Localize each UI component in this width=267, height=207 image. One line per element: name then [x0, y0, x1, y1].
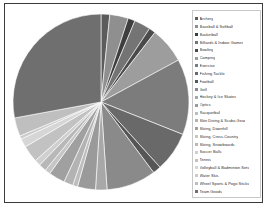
- legend-item-label: Skiing, Downhill: [200, 125, 228, 133]
- legend-swatch-icon: [195, 17, 198, 20]
- legend-item-label: Volleyball & Badminton Sets: [200, 164, 250, 172]
- legend-item[interactable]: Archery: [195, 15, 259, 23]
- legend-item[interactable]: Skiing, Snowboards: [195, 141, 259, 149]
- legend-swatch-icon: [195, 64, 198, 67]
- legend-item-label: Camping: [200, 54, 216, 62]
- legend-item[interactable]: Hockey & Ice Skates: [195, 93, 259, 101]
- legend-item[interactable]: Tennis: [195, 156, 259, 164]
- legend-item[interactable]: Volleyball & Badminton Sets: [195, 164, 259, 172]
- legend-swatch-icon: [195, 33, 198, 36]
- legend-swatch-icon: [195, 135, 198, 138]
- legend-item-label: Optics: [200, 101, 211, 109]
- legend-item-label: Hockey & Ice Skates: [200, 93, 237, 101]
- legend-swatch-icon: [195, 182, 198, 185]
- legend-item[interactable]: Billiards & Indoor Games: [195, 39, 259, 47]
- legend-swatch-icon: [195, 119, 198, 122]
- legend-swatch-icon: [195, 159, 198, 162]
- legend-swatch-icon: [195, 143, 198, 146]
- chart-frame: ArcheryBaseball & SoftballBasketballBill…: [4, 3, 263, 203]
- legend-swatch-icon: [195, 174, 198, 177]
- chart-inner-panel: ArcheryBaseball & SoftballBasketballBill…: [6, 5, 261, 201]
- legend-item[interactable]: Racquetball: [195, 109, 259, 117]
- legend-swatch-icon: [195, 88, 198, 91]
- legend-item-label: Soccer Balls: [200, 148, 222, 156]
- pie-slice[interactable]: [13, 14, 101, 118]
- legend-item[interactable]: Baseball & Softball: [195, 23, 259, 31]
- chart-legend: ArcheryBaseball & SoftballBasketballBill…: [192, 10, 261, 198]
- legend-swatch-icon: [195, 112, 198, 115]
- legend-item-label: Exercise: [200, 62, 215, 70]
- legend-item-label: Bowling: [200, 46, 214, 54]
- pie-chart-area: [6, 5, 192, 201]
- legend-item[interactable]: Basketball: [195, 31, 259, 39]
- legend-item-label: Water Skis: [200, 172, 219, 180]
- legend-swatch-icon: [195, 104, 198, 107]
- legend-item[interactable]: Optics: [195, 101, 259, 109]
- legend-item-label: Basketball: [200, 31, 218, 39]
- legend-item[interactable]: Football: [195, 78, 259, 86]
- legend-item-label: Wheel Sports & Pogo Sticks: [200, 180, 250, 188]
- legend-item-label: Archery: [200, 15, 214, 23]
- legend-swatch-icon: [195, 49, 198, 52]
- legend-swatch-icon: [195, 72, 198, 75]
- legend-item[interactable]: Golf: [195, 86, 259, 94]
- legend-item-label: Skiing, Cross-Country: [200, 133, 239, 141]
- legend-item[interactable]: Skiing, Downhill: [195, 125, 259, 133]
- legend-item[interactable]: Skiing, Cross-Country: [195, 133, 259, 141]
- legend-item-label: Baseball & Softball: [200, 23, 233, 31]
- legend-item[interactable]: Fishing Tackle: [195, 70, 259, 78]
- legend-item[interactable]: Skin Diving & Scuba Gear: [195, 117, 259, 125]
- legend-item-label: Racquetball: [200, 109, 221, 117]
- legend-item-label: Football: [200, 78, 214, 86]
- legend-item[interactable]: Wheel Sports & Pogo Sticks: [195, 180, 259, 188]
- legend-item-label: Tennis: [200, 156, 211, 164]
- legend-swatch-icon: [195, 166, 198, 169]
- legend-swatch-icon: [195, 96, 198, 99]
- legend-item[interactable]: Bowling: [195, 46, 259, 54]
- legend-swatch-icon: [195, 80, 198, 83]
- legend-item-label: Golf: [200, 86, 207, 94]
- legend-item[interactable]: Water Skis: [195, 172, 259, 180]
- legend-swatch-icon: [195, 57, 198, 60]
- legend-swatch-icon: [195, 151, 198, 154]
- legend-swatch-icon: [195, 190, 198, 193]
- legend-item[interactable]: Exercise: [195, 62, 259, 70]
- legend-swatch-icon: [195, 25, 198, 28]
- legend-item-label: Skiing, Snowboards: [200, 141, 235, 149]
- pie-chart[interactable]: [12, 7, 190, 197]
- legend-item-label: Skin Diving & Scuba Gear: [200, 117, 246, 125]
- legend-item[interactable]: Camping: [195, 54, 259, 62]
- legend-item-label: Fishing Tackle: [200, 70, 225, 78]
- legend-item-label: Billiards & Indoor Games: [200, 39, 244, 47]
- legend-item[interactable]: Team Goods: [195, 188, 259, 196]
- legend-item[interactable]: Soccer Balls: [195, 148, 259, 156]
- legend-swatch-icon: [195, 41, 198, 44]
- legend-item-label: Team Goods: [200, 188, 222, 196]
- legend-swatch-icon: [195, 127, 198, 130]
